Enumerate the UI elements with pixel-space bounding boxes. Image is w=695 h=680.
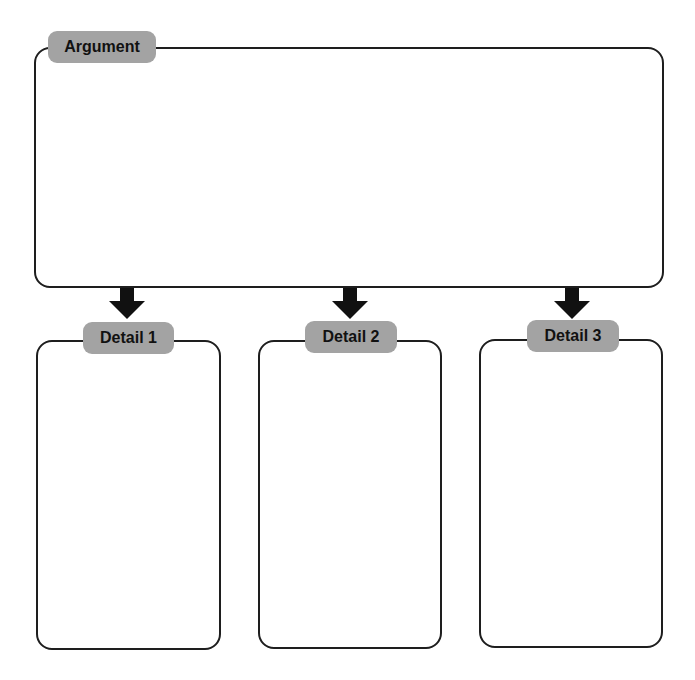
detail-2-box[interactable] — [258, 340, 442, 649]
detail-2-label: Detail 2 — [305, 321, 397, 353]
detail-1-box[interactable] — [36, 340, 221, 650]
detail-3-label: Detail 3 — [527, 320, 619, 352]
argument-label: Argument — [48, 31, 156, 63]
arrow-down-icon — [109, 288, 145, 320]
detail-1-label: Detail 1 — [83, 322, 174, 354]
arrow-down-icon — [554, 288, 590, 320]
detail-3-box[interactable] — [479, 339, 663, 648]
arrow-down-icon — [332, 288, 368, 320]
argument-box[interactable] — [34, 47, 664, 288]
